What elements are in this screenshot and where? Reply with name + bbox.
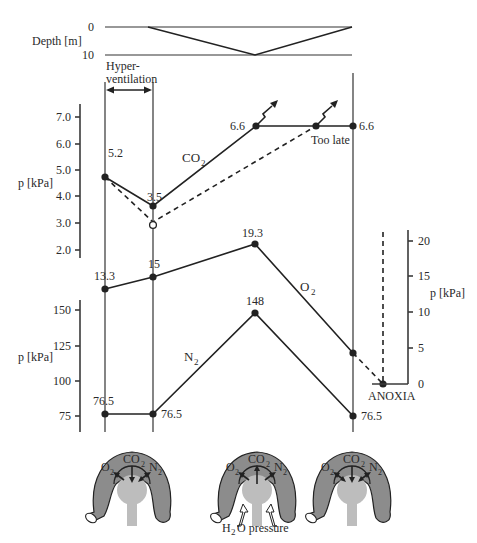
o2-dashed-line xyxy=(353,353,383,384)
depth-tick-10: 10 xyxy=(82,48,94,62)
anoxia-label: ANOXIA xyxy=(368,389,416,403)
svg-text:2: 2 xyxy=(378,468,382,477)
svg-text:O: O xyxy=(226,460,235,474)
too-late-label: Too late xyxy=(311,133,350,147)
o2-series-label: O 2 xyxy=(300,279,316,297)
depth-tick-0: 0 xyxy=(88,20,94,34)
n2-point xyxy=(101,410,108,417)
co2-point xyxy=(349,122,356,129)
svg-text:CO: CO xyxy=(123,452,140,466)
co2-value-peak: 6.6 xyxy=(230,119,245,133)
o2-tick: 10 xyxy=(418,305,430,319)
co2-tick: 6.0 xyxy=(56,137,71,151)
co2-tick: 5.0 xyxy=(56,163,71,177)
svg-text:H: H xyxy=(222,521,231,535)
breakpoint-arrow-icon xyxy=(316,100,338,126)
svg-text:2: 2 xyxy=(194,357,199,367)
svg-text:N: N xyxy=(149,460,158,474)
o2-axis: 20 15 10 5 0 p [kPa] xyxy=(372,230,465,391)
breath-hold-dive-chart: Depth [m] 0 10 Hyper- ventilation 7.0 6.… xyxy=(0,0,477,543)
svg-text:O pressure: O pressure xyxy=(237,521,289,535)
co2-value-hyper: 3.5 xyxy=(147,190,162,204)
svg-text:N: N xyxy=(274,460,283,474)
o2-tick: 0 xyxy=(418,377,424,391)
svg-text:O: O xyxy=(101,460,110,474)
o2-point xyxy=(101,285,108,292)
svg-text:N: N xyxy=(184,349,194,364)
co2-tick: 7.0 xyxy=(56,110,71,124)
lung-icon-surface: CO 2 O 2 N 2 xyxy=(304,452,391,526)
svg-text:CO: CO xyxy=(182,150,200,165)
h2o-pressure-label: H 2 O pressure xyxy=(222,521,289,537)
hyperventilation-marker: Hyper- ventilation xyxy=(106,59,157,94)
o2-value-peak: 19.3 xyxy=(242,226,263,240)
depth-profile: Depth [m] 0 10 xyxy=(32,20,352,62)
svg-text:2: 2 xyxy=(283,468,287,477)
svg-text:2: 2 xyxy=(231,527,236,537)
co2-value-start: 5.2 xyxy=(108,146,123,160)
n2-point xyxy=(349,412,356,419)
n2-line xyxy=(105,313,353,416)
o2-tick: 5 xyxy=(418,341,424,355)
hyperventilation-label-2: ventilation xyxy=(106,72,157,86)
svg-text:2: 2 xyxy=(311,287,316,297)
o2-value-start: 13.3 xyxy=(94,269,115,283)
o2-value-hyper: 15 xyxy=(148,257,160,271)
svg-text:2: 2 xyxy=(110,468,114,477)
svg-text:CO: CO xyxy=(343,452,360,466)
o2-tick: 15 xyxy=(418,269,430,283)
svg-text:2: 2 xyxy=(330,468,334,477)
o2-point xyxy=(149,273,156,280)
o2-point xyxy=(251,240,258,247)
n2-value-hyper: 76.5 xyxy=(161,407,182,421)
o2-solid-line xyxy=(105,244,353,353)
arrow-right-icon xyxy=(144,87,152,94)
o2-point xyxy=(349,349,356,356)
n2-series-label: N 2 xyxy=(184,349,199,367)
lung-icon-bottom: CO 2 O 2 N 2 xyxy=(209,452,296,526)
o2-tick: 20 xyxy=(418,234,430,248)
co2-axis: 7.0 6.0 5.0 4.0 3.0 2.0 p [kPa] xyxy=(18,104,80,258)
co2-point xyxy=(101,173,108,180)
depth-profile-line xyxy=(148,27,352,55)
svg-text:2: 2 xyxy=(361,460,365,469)
arrow-left-icon xyxy=(106,87,114,94)
n2-point xyxy=(251,309,258,316)
n2-tick: 125 xyxy=(53,339,71,353)
co2-value-end: 6.6 xyxy=(359,119,374,133)
n2-tick: 100 xyxy=(53,374,71,388)
co2-tick: 2.0 xyxy=(56,243,71,257)
co2-axis-title: p [kPa] xyxy=(18,176,53,190)
breakpoint-arrow-icon xyxy=(256,100,278,126)
svg-text:2: 2 xyxy=(235,468,239,477)
n2-point xyxy=(149,410,156,417)
co2-series: 5.2 3.5 6.6 6.6 Too late CO 2 xyxy=(101,100,374,228)
co2-open-point xyxy=(150,222,157,229)
o2-axis-title: p [kPa] xyxy=(430,286,465,300)
svg-text:2: 2 xyxy=(141,460,145,469)
svg-text:2: 2 xyxy=(158,468,162,477)
n2-value-end: 76.5 xyxy=(361,409,382,423)
hyperventilation-label-1: Hyper- xyxy=(106,59,140,73)
svg-text:2: 2 xyxy=(266,460,270,469)
n2-tick: 150 xyxy=(53,303,71,317)
svg-text:O: O xyxy=(321,460,330,474)
n2-value-peak: 148 xyxy=(246,294,264,308)
svg-text:2: 2 xyxy=(201,158,206,168)
co2-tick: 3.0 xyxy=(56,216,71,230)
co2-series-label: CO 2 xyxy=(182,150,206,168)
n2-axis-title: p [kPa] xyxy=(18,350,53,364)
svg-text:O: O xyxy=(300,279,309,294)
co2-tick: 4.0 xyxy=(56,189,71,203)
n2-series: 76.5 76.5 148 76.5 N 2 xyxy=(93,294,382,423)
n2-tick: 75 xyxy=(59,409,71,423)
n2-axis: 150 125 100 75 p [kPa] xyxy=(18,300,80,432)
svg-text:N: N xyxy=(369,460,378,474)
depth-axis-label: Depth [m] xyxy=(32,34,82,48)
lung-icon-start: CO 2 O 2 N 2 xyxy=(84,452,171,526)
svg-text:CO: CO xyxy=(248,452,265,466)
n2-value-start: 76.5 xyxy=(93,394,114,408)
co2-dashed-line xyxy=(105,126,316,222)
